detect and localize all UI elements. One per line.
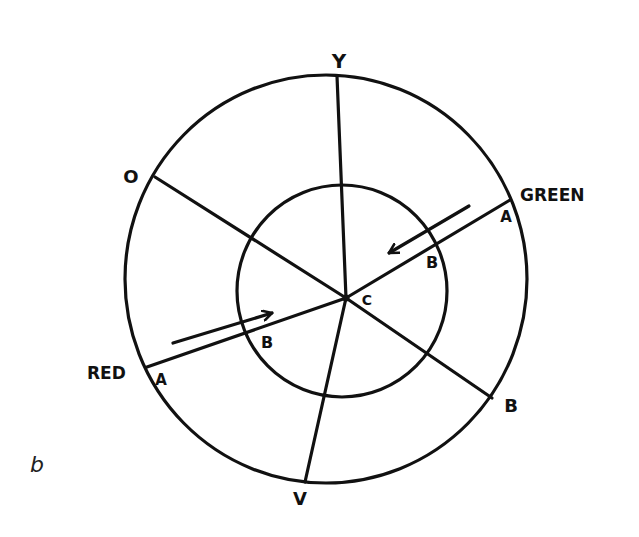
radial-line-violet [305, 298, 346, 482]
label-red-a: A [155, 371, 167, 389]
label-center-c: C [362, 292, 372, 308]
radial-line-red [147, 298, 346, 367]
green-arrow-icon [389, 206, 469, 253]
label-green: GREEN [520, 185, 585, 205]
radial-line-green [346, 200, 510, 298]
center-point [343, 295, 350, 302]
label-violet: V [293, 488, 307, 509]
radial-line-orange [155, 177, 346, 298]
label-blue: B [504, 395, 518, 416]
label-green-a: A [500, 208, 512, 226]
label-green-b: B [426, 253, 438, 272]
radial-line-yellow [337, 76, 346, 298]
color-wheel-diagram: Y O GREEN A B C RED A B B V b [0, 0, 639, 537]
outer-circle [125, 75, 527, 483]
label-red-b: B [261, 333, 273, 352]
radial-line-blue [346, 298, 492, 398]
panel-label: b [30, 452, 44, 477]
label-orange: O [123, 166, 138, 187]
label-red: RED [87, 363, 126, 383]
label-yellow: Y [331, 49, 347, 73]
